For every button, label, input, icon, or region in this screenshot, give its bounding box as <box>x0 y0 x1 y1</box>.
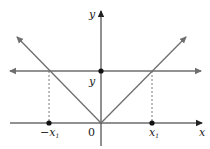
pos-x1-label: x1 <box>149 126 159 139</box>
point-neg-x1 <box>46 120 51 125</box>
y-intercept-label: y <box>88 75 96 88</box>
neg-x1-label: −x1 <box>40 126 59 139</box>
point-y-intercept <box>98 68 103 73</box>
point-pos-x1 <box>149 120 154 125</box>
origin-label: 0 <box>88 126 95 139</box>
v-right-branch <box>101 37 186 123</box>
y-axis-label: y <box>88 8 96 21</box>
x-axis-label: x <box>199 126 206 139</box>
diagram-canvas: y x 0 y −x1 x1 <box>0 0 210 149</box>
